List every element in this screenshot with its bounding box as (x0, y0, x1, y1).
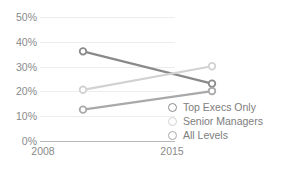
y-axis-tick-label: 50% (3, 12, 37, 22)
legend-item-label: All Levels (183, 129, 228, 141)
data-point-marker (209, 88, 216, 95)
data-point-marker (209, 63, 216, 70)
legend-marker-circle-icon (168, 131, 177, 140)
y-axis-tick-label: 40% (3, 37, 37, 47)
legend-item-label: Top Execs Only (183, 101, 256, 113)
y-axis-tick-label: 30% (3, 62, 37, 72)
y-axis-tick-label: 20% (3, 86, 37, 96)
line-chart: 50%40%30%20%10%0% 20082015 Top Execs Onl… (0, 0, 282, 178)
legend-marker-circle-icon (168, 117, 177, 126)
chart-legend: Top Execs OnlySenior ManagersAll Levels (168, 100, 280, 142)
x-axis-labels: 20082015 (40, 145, 175, 161)
plot-area (40, 17, 175, 141)
y-axis-labels: 50%40%30%20%10%0% (0, 17, 37, 141)
x-axis-tick-label: 2008 (31, 145, 54, 157)
legend-marker-circle-icon (168, 103, 177, 112)
legend-item[interactable]: Top Execs Only (168, 100, 280, 114)
x-axis-tick-label: 2015 (160, 145, 183, 157)
data-point-marker (209, 80, 216, 87)
legend-item-label: Senior Managers (183, 115, 263, 127)
data-point-marker (80, 48, 87, 55)
data-point-marker (80, 87, 87, 94)
legend-item[interactable]: All Levels (168, 128, 280, 142)
legend-item[interactable]: Senior Managers (168, 114, 280, 128)
y-axis-tick-label: 10% (3, 111, 37, 121)
data-point-marker (80, 106, 87, 113)
